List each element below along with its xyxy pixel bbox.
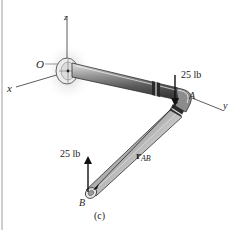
figure-frame: z x O y (0, 0, 232, 230)
pipe-diagram: z x O y (0, 0, 232, 230)
x-axis-label: x (6, 82, 12, 94)
force-arrowhead-b (84, 156, 92, 164)
origin-point (67, 70, 70, 73)
z-axis-label: z (63, 12, 68, 22)
position-vector-rab (95, 102, 178, 188)
force-label-b: 25 lb (60, 148, 80, 159)
pipe-highlight (92, 114, 176, 193)
y-axis-line (192, 98, 222, 110)
point-a-label: A (188, 90, 196, 101)
force-label-a: 25 lb (181, 69, 201, 80)
rab-subscript: AB (140, 154, 151, 163)
figure-caption: (c) (94, 210, 105, 222)
y-axis-label: y (222, 100, 228, 111)
point-b-label: B (79, 197, 85, 208)
origin-label: O (36, 58, 44, 70)
